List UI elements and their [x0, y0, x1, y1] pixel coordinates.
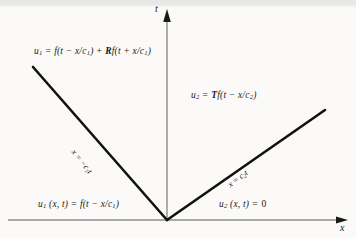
u1-arguments: (x, t)	[46, 199, 68, 209]
plus-sign: +	[94, 46, 106, 56]
x-over-c1-reflected: x/c	[133, 46, 145, 56]
zero-value: 0	[261, 199, 267, 209]
close-paren-1: )	[90, 46, 93, 56]
t-axis-arrowhead	[163, 9, 171, 22]
equals-sign: =	[42, 46, 54, 56]
region-label-lower-left: u1 (x, t) = f(t − x/c1)	[38, 200, 119, 210]
equals-sign-right: =	[199, 90, 211, 100]
minus-sign-right: −	[226, 90, 238, 100]
left-characteristic-line	[33, 67, 167, 220]
region-label-upper-left: u1 = f(t − x/c1) + Rf(t + x/c1)	[34, 47, 151, 57]
equals-sign-bottom-right: =	[249, 199, 261, 209]
close-paren-right: )	[253, 90, 256, 100]
region-label-lower-right: u2 (x, t) = 0	[219, 200, 267, 210]
incident-term: f(t	[54, 46, 63, 56]
minus-sign-bottom-left: −	[89, 199, 101, 209]
region-label-right: u2 = Tf(t − x/c2)	[191, 91, 257, 101]
close-paren-2: )	[148, 46, 151, 56]
x-over-c2: x/c	[238, 90, 250, 100]
incident-wave-term: f(t	[80, 199, 89, 209]
t-axis-label: t	[155, 3, 158, 14]
x-axis-label: x	[340, 222, 345, 233]
u2-arguments: (x, t)	[227, 199, 249, 209]
close-paren-bottom-left: )	[116, 199, 119, 209]
transmitted-term: f(t	[217, 90, 226, 100]
characteristic-diagram-figure: t x u1 = f(t − x/c1) + Rf(t + x/c1) u2 =…	[0, 0, 356, 238]
x-over-c1-bottom: x/c	[101, 199, 113, 209]
reflected-term: f(t	[112, 46, 121, 56]
plus-sign-2: +	[121, 46, 133, 56]
minus-sign: −	[63, 46, 75, 56]
equals-sign-bottom-left: =	[68, 199, 80, 209]
x-over-c1: x/c	[75, 46, 87, 56]
